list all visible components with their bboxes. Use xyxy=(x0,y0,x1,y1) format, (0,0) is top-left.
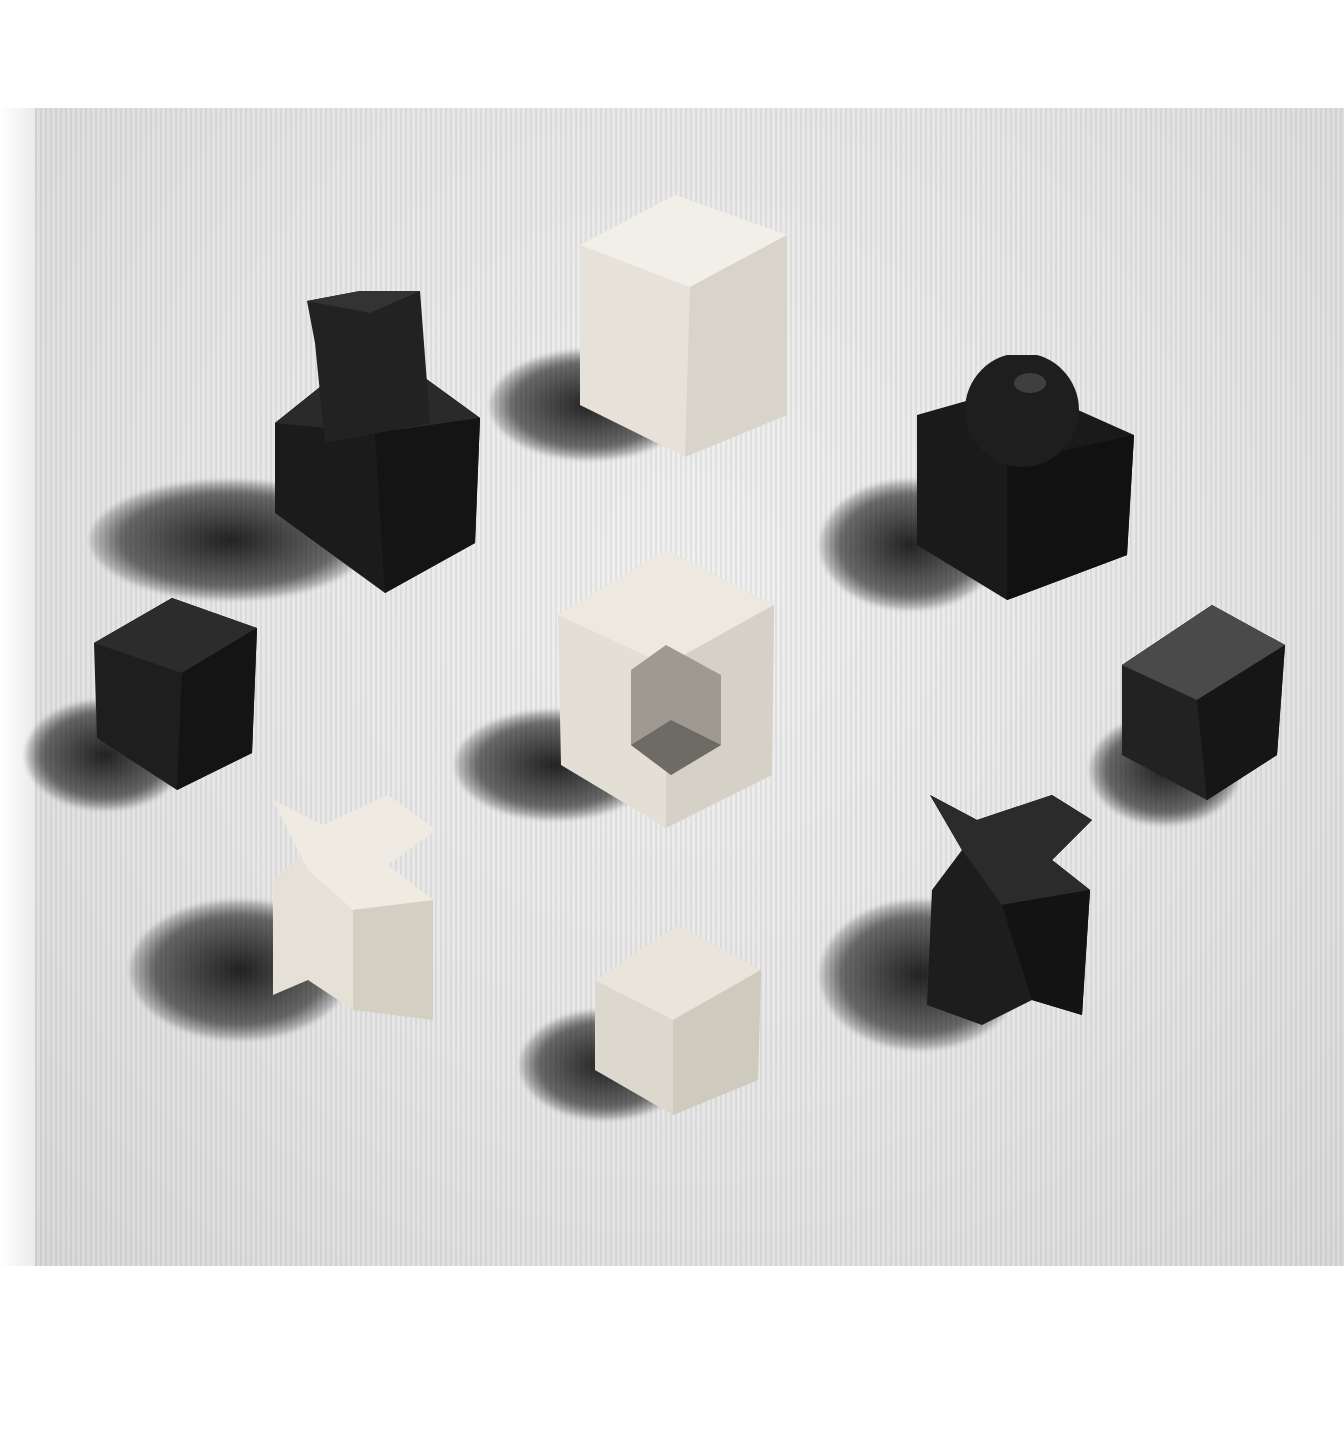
photo-edge xyxy=(0,108,40,1266)
piece-light-king xyxy=(556,550,778,830)
piece-light-pawn xyxy=(593,925,763,1117)
piece-light-bishop xyxy=(268,790,440,1022)
piece-dark-knight xyxy=(265,283,485,593)
piece-dark-cube-left xyxy=(92,598,260,793)
piece-light-cube-top xyxy=(575,195,795,460)
piece-dark-cube-right xyxy=(1117,605,1287,800)
piece-dark-bishop xyxy=(922,790,1094,1030)
piece-dark-queen xyxy=(912,355,1140,603)
